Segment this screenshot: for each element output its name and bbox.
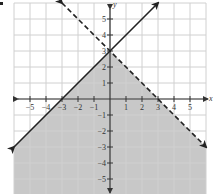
x-tick-label: −4 (42, 103, 51, 112)
y-tick-label: −5 (97, 175, 106, 184)
x-tick-label: −2 (74, 103, 83, 112)
y-tick-label: 2 (102, 63, 106, 72)
y-tick-label: 5 (102, 15, 106, 24)
x-tick-label: −5 (26, 103, 35, 112)
x-tick-label: 2 (140, 103, 144, 112)
y-tick-label: 4 (102, 31, 106, 40)
y-tick-label: −4 (97, 159, 106, 168)
x-tick-label: 1 (124, 103, 128, 112)
coordinate-graph: −5−4−3−2−112345−5−4−3−2−112345 x y (0, 0, 213, 194)
y-tick-label: −1 (97, 111, 106, 120)
x-axis-label: x (208, 94, 213, 103)
x-tick-label: 3 (156, 103, 160, 112)
y-tick-label: 1 (102, 79, 106, 88)
y-tick-label: −2 (97, 127, 106, 136)
x-tick-label: −3 (58, 103, 67, 112)
y-axis-label: y (112, 0, 117, 9)
x-tick-label: 5 (188, 103, 192, 112)
x-tick-label: 4 (172, 103, 176, 112)
y-tick-label: −3 (97, 143, 106, 152)
